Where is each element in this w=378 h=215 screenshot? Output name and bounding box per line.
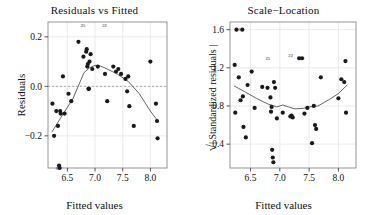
svg-text:0.0: 0.0 — [30, 82, 42, 92]
svg-text:25: 25 — [266, 56, 271, 61]
svg-text:8.0: 8.0 — [332, 173, 344, 183]
diagnostic-plots-figure: Residuals vs Fitted 6.57.07.58.0−0.20.00… — [0, 0, 378, 215]
sqrt-icon: √ — [204, 144, 219, 151]
svg-text:6.5: 6.5 — [61, 173, 73, 183]
svg-text:6.5: 6.5 — [245, 173, 257, 183]
y-axis-title-left: Residuals — [15, 45, 27, 145]
svg-text:8.0: 8.0 — [144, 173, 156, 183]
svg-text:0.2: 0.2 — [30, 32, 42, 42]
svg-text:22: 22 — [102, 23, 107, 28]
panel-residuals-vs-fitted: Residuals vs Fitted 6.57.07.58.0−0.20.00… — [0, 0, 189, 215]
x-axis-title-right: Fitted values — [189, 199, 378, 211]
svg-text:7.0: 7.0 — [89, 173, 101, 183]
svg-text:7.5: 7.5 — [117, 173, 129, 183]
y-axis-title-right: √| Standardized residuals | — [204, 28, 220, 168]
svg-text:7.5: 7.5 — [303, 173, 315, 183]
x-axis-title-left: Fitted values — [0, 199, 189, 211]
y-axis-title-right-text: | Standardized residuals | — [207, 45, 218, 144]
svg-text:22: 22 — [288, 53, 293, 58]
svg-text:7.0: 7.0 — [274, 173, 286, 183]
svg-text:−0.2: −0.2 — [25, 131, 42, 141]
residuals-vs-fitted-plot: 6.57.07.58.0−0.20.00.225226 — [0, 0, 189, 215]
svg-text:25: 25 — [81, 23, 86, 28]
panel-scale-location: Scale−Location 6.57.07.58.00.40.81.21.62… — [189, 0, 378, 215]
